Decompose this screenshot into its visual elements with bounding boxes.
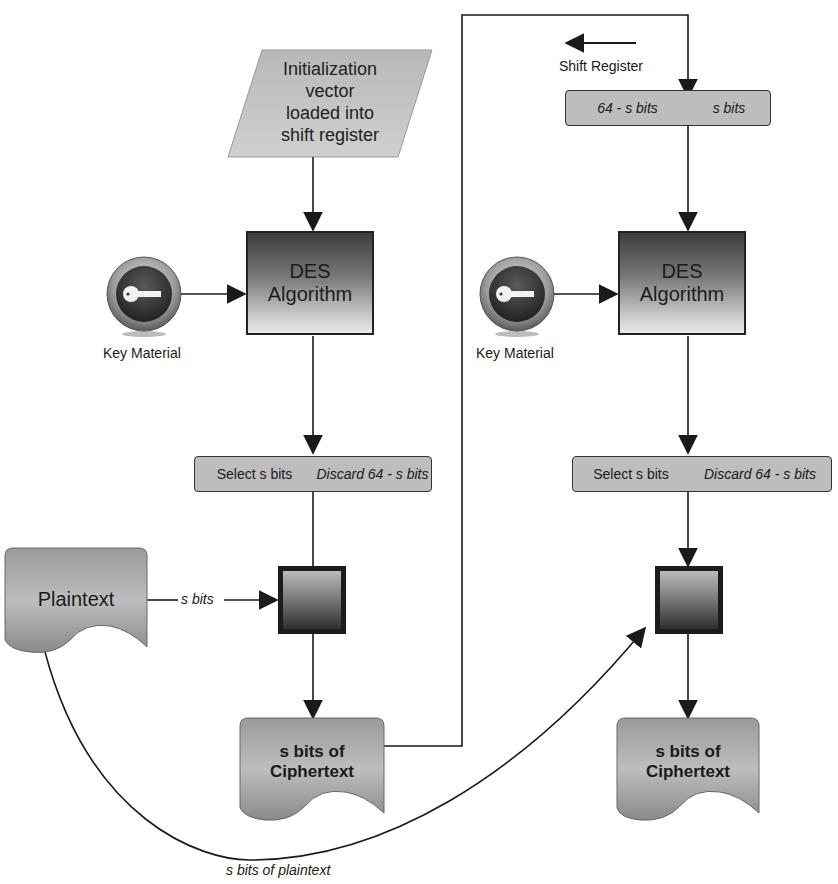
des-algorithm-box-left: DESAlgorithm bbox=[246, 231, 374, 335]
ciphertext-line2: Ciphertext bbox=[617, 762, 759, 782]
ciphertext-label-right: s bits of Ciphertext bbox=[617, 742, 759, 782]
iv-label: Initialization vector loaded into shift … bbox=[228, 58, 432, 146]
des-line2: Algorithm bbox=[640, 283, 724, 306]
shift-register-label: Shift Register bbox=[559, 58, 643, 74]
select-bar-left: Select s bits Discard 64 - s bits bbox=[194, 456, 432, 492]
shift-register-bar: 64 - s bits s bits bbox=[565, 90, 771, 126]
select-s-bits: Select s bits bbox=[573, 466, 689, 482]
discard-bits: Discard 64 - s bits bbox=[689, 466, 831, 482]
select-s-bits: Select s bits bbox=[195, 466, 314, 482]
ciphertext-line1: s bits of bbox=[240, 742, 384, 762]
key-material-label-right: Key Material bbox=[476, 345, 554, 361]
shift-register-left-cell: 64 - s bits bbox=[566, 100, 689, 116]
key-material-label-left: Key Material bbox=[103, 345, 181, 361]
discard-bits: Discard 64 - s bits bbox=[314, 466, 431, 482]
key-icon-right bbox=[480, 257, 554, 337]
ciphertext-label-left: s bits of Ciphertext bbox=[240, 742, 384, 782]
shift-register-right-cell: s bits bbox=[689, 100, 769, 116]
ciphertext-line1: s bits of bbox=[617, 742, 759, 762]
ciphertext-line2: Ciphertext bbox=[240, 762, 384, 782]
iv-line-2: vector bbox=[228, 80, 432, 102]
des-algorithm-box-right: DESAlgorithm bbox=[618, 231, 746, 335]
plaintext-curve-label: s bits of plaintext bbox=[226, 862, 330, 878]
select-bar-right: Select s bits Discard 64 - s bits bbox=[572, 456, 832, 492]
key-icon-left bbox=[107, 257, 181, 337]
iv-line-4: shift register bbox=[228, 124, 432, 146]
plaintext-label: Plaintext bbox=[5, 588, 147, 611]
xor-square-right bbox=[655, 566, 723, 634]
des-line1: DES bbox=[268, 260, 352, 283]
s-bits-edge-label: s bits bbox=[181, 591, 214, 607]
xor-square-left bbox=[278, 566, 346, 634]
iv-line-3: loaded into bbox=[228, 102, 432, 124]
iv-line-1: Initialization bbox=[228, 58, 432, 80]
des-line1: DES bbox=[640, 260, 724, 283]
des-line2: Algorithm bbox=[268, 283, 352, 306]
